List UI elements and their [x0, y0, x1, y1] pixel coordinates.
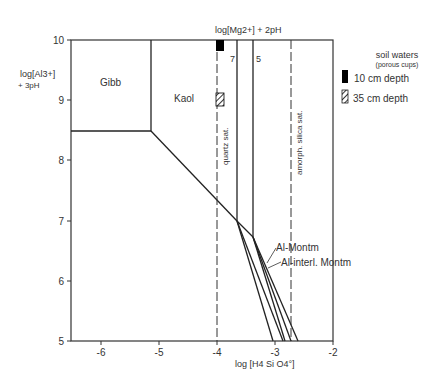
sample-35cm-marker — [216, 93, 224, 106]
y-axis-title-line1: log[Al3+] — [20, 69, 55, 79]
mg-isoline-label-7: 7 — [230, 54, 235, 64]
legend-title: soil waters — [376, 50, 419, 60]
field-label-gibbsite: Gibb — [100, 77, 122, 88]
quartz-saturation-label: quartz sat. — [221, 128, 230, 165]
legend-subtitle: (porous cups) — [376, 61, 419, 69]
svg-text:-5: -5 — [155, 347, 164, 358]
field-label-al-interl: Al-interl. Montm — [281, 257, 351, 268]
svg-text:-4: -4 — [213, 347, 222, 358]
x-axis-title: log [H4 Si O4°] — [235, 359, 295, 369]
legend: soil waters (porous cups) 10 cm depth 35… — [342, 50, 419, 104]
svg-text:10: 10 — [53, 35, 65, 46]
legend-swatch-35cm — [342, 90, 348, 103]
field-label-al-montm: Al-Montm — [276, 242, 319, 253]
stability-diagram: 10 9 8 7 6 5 -6 -5 -4 -3 -2 log [H4 Si O… — [0, 0, 431, 383]
svg-text:-3: -3 — [271, 347, 280, 358]
svg-text:8: 8 — [58, 155, 64, 166]
y-axis-title-line2: + 3pH — [18, 81, 40, 90]
field-label-kaolinite: Kaol — [174, 93, 194, 104]
svg-text:9: 9 — [58, 95, 64, 106]
svg-text:6: 6 — [58, 276, 64, 287]
top-axis-title: log[Mg2+] + 2pH — [215, 25, 282, 35]
amorphous-silica-label: amorph. silica sat. — [295, 111, 304, 175]
svg-text:5: 5 — [58, 336, 64, 347]
mg-isoline-label-5: 5 — [256, 54, 261, 64]
legend-swatch-10cm — [342, 70, 348, 83]
svg-text:-2: -2 — [329, 347, 338, 358]
sample-10cm-marker — [216, 40, 224, 51]
x-axis-labels: -6 -5 -4 -3 -2 — [97, 347, 338, 358]
legend-label-10cm: 10 cm depth — [354, 73, 409, 84]
legend-label-35cm: 35 cm depth — [353, 93, 408, 104]
svg-text:7: 7 — [58, 216, 64, 227]
svg-text:-6: -6 — [97, 347, 106, 358]
y-axis-labels: 10 9 8 7 6 5 — [53, 35, 65, 347]
